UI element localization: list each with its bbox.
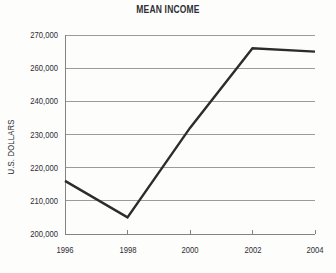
x-tick-label: 1996 <box>47 245 83 256</box>
y-tick-label: 220,000 <box>17 163 58 173</box>
y-tick-label: 240,000 <box>17 96 58 106</box>
x-tick-label: 2004 <box>297 245 333 256</box>
y-tick-label: 260,000 <box>17 63 58 73</box>
y-tick-label: 270,000 <box>17 30 58 40</box>
y-tick-label: 200,000 <box>17 229 58 239</box>
y-tick-label: 210,000 <box>17 196 58 206</box>
mean-income-line <box>65 48 315 217</box>
x-tick-label: 2002 <box>235 245 271 256</box>
x-tick-label: 2000 <box>172 245 208 256</box>
y-tick-label: 230,000 <box>17 130 58 140</box>
x-tick-label: 1998 <box>110 245 146 256</box>
mean-income-chart: MEAN INCOME U.S. DOLLARS 200,000210,0002… <box>0 0 336 273</box>
